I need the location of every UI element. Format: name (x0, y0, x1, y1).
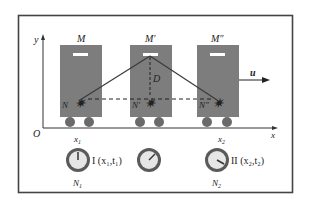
clock-2 (137, 148, 161, 172)
distance-label: D (152, 73, 161, 84)
mirror-icon (73, 53, 88, 56)
mirror-label: M (76, 33, 86, 44)
event-label: II (x₂,t₂) (231, 155, 264, 167)
mirror-label: M″ (210, 33, 224, 44)
wheel-icon (202, 117, 212, 127)
source-label: N′ (131, 100, 141, 110)
wheel-icon (135, 117, 145, 127)
wheel-icon (222, 117, 232, 127)
source-star-icon: ✷ (144, 96, 157, 111)
wheel-icon (65, 117, 75, 127)
car-2: M′ N′ ✷ (130, 33, 172, 127)
velocity-label: u (250, 67, 256, 78)
mirror-icon (143, 53, 158, 56)
source-label: N (61, 100, 69, 110)
wheel-icon (154, 117, 164, 127)
y-axis-label: y (33, 34, 39, 45)
source-star-icon: ✷ (74, 96, 87, 111)
x-axis-label: x (270, 130, 275, 140)
source-label: N″ (198, 100, 209, 110)
event-label: I (x₁,t₁) (92, 155, 122, 167)
light-clock-diagram: y O x M N ✷ x1 M′ N′ ✷ M″ N″ ✷ x2 (0, 0, 311, 204)
origin-label: O (33, 128, 40, 139)
mirror-icon (210, 53, 225, 56)
wheel-icon (84, 117, 94, 127)
mirror-label: M′ (144, 33, 156, 44)
